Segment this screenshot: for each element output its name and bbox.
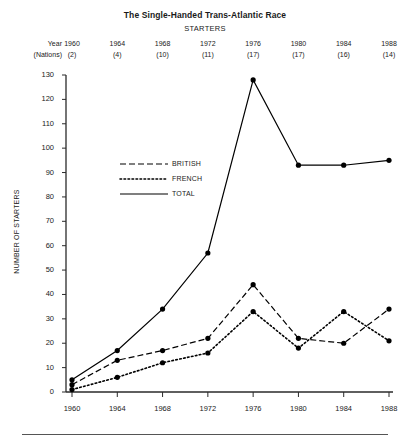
y-axis-tick-label: 10 (28, 363, 54, 372)
data-point-french-1972 (205, 350, 210, 355)
data-point-british-1976 (251, 282, 256, 287)
y-axis-tick-label: 120 (28, 94, 54, 103)
x-axis-tick-label: 1984 (324, 404, 364, 413)
data-point-british-1960 (69, 382, 74, 387)
data-point-french-1968 (160, 360, 165, 365)
plot-area (0, 0, 410, 448)
x-axis-tick-label: 1980 (278, 404, 318, 413)
y-axis-tick-label: 50 (28, 265, 54, 274)
data-point-british-1968 (160, 348, 165, 353)
data-point-french-1980 (296, 346, 301, 351)
data-point-french-1976 (251, 309, 256, 314)
y-axis-tick-label: 90 (28, 168, 54, 177)
x-axis-tick-label: 1972 (188, 404, 228, 413)
data-point-total-1968 (160, 306, 165, 311)
legend-label-total: TOTAL (172, 190, 195, 197)
y-axis-tick-label: 30 (28, 314, 54, 323)
data-point-total-1964 (115, 348, 120, 353)
data-point-french-1964 (115, 375, 120, 380)
chart-figure: The Single-Handed Trans-Atlantic Race ST… (0, 0, 410, 448)
series-line-british (72, 285, 389, 385)
x-axis-tick-label: 1960 (52, 404, 92, 413)
footer-divider (22, 434, 388, 435)
x-axis-tick-label: 1988 (369, 404, 409, 413)
series-line-total (72, 80, 389, 380)
data-point-british-1964 (115, 358, 120, 363)
x-axis-tick-label: 1968 (143, 404, 183, 413)
data-point-total-1988 (386, 158, 391, 163)
y-axis-tick-label: 110 (28, 119, 54, 128)
y-axis-tick-label: 100 (28, 143, 54, 152)
data-point-french-1988 (386, 338, 391, 343)
x-axis-tick-label: 1976 (233, 404, 273, 413)
data-point-british-1972 (205, 336, 210, 341)
y-axis-tick-label: 0 (28, 387, 54, 396)
x-axis-tick-label: 1964 (97, 404, 137, 413)
y-axis-tick-label: 80 (28, 192, 54, 201)
y-axis-tick-label: 40 (28, 289, 54, 298)
data-point-british-1988 (386, 306, 391, 311)
data-point-british-1980 (296, 336, 301, 341)
data-point-total-1984 (341, 163, 346, 168)
y-axis-tick-label: 60 (28, 241, 54, 250)
data-point-french-1984 (341, 309, 346, 314)
data-point-french-1960 (69, 387, 74, 392)
data-point-total-1972 (205, 250, 210, 255)
data-point-total-1960 (69, 377, 74, 382)
data-point-british-1984 (341, 341, 346, 346)
data-point-total-1976 (251, 77, 256, 82)
y-axis-tick-label: 130 (28, 70, 54, 79)
y-axis-tick-label: 20 (28, 338, 54, 347)
y-axis-tick-label: 70 (28, 216, 54, 225)
legend-label-french: FRENCH (172, 175, 202, 182)
legend-label-british: BRITISH (172, 160, 201, 167)
data-point-total-1980 (296, 163, 301, 168)
